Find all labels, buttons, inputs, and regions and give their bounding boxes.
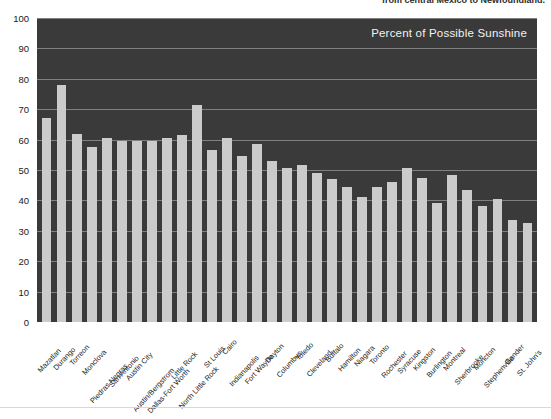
bar (87, 147, 97, 322)
bar (252, 144, 262, 322)
bar (357, 197, 367, 322)
bar (147, 141, 157, 322)
y-axis-tick-label: 30 (18, 225, 29, 236)
sunshine-bar-chart: 0102030405060708090100 Percent of Possib… (0, 9, 551, 419)
bar (222, 138, 232, 322)
bar (372, 187, 382, 322)
y-axis: 0102030405060708090100 (0, 18, 33, 322)
bar (402, 168, 412, 322)
bar (132, 141, 142, 322)
y-axis-tick-label: 50 (18, 165, 29, 176)
bar (387, 182, 397, 322)
bar (162, 138, 172, 322)
bar (297, 165, 307, 322)
bar (447, 175, 457, 322)
y-axis-tick-label: 10 (18, 286, 29, 297)
x-axis: MazatlanDurangoTorreonMonclovaPiedras Ne… (37, 323, 537, 413)
bar (72, 134, 82, 322)
y-axis-tick-label: 20 (18, 256, 29, 267)
top-caption: from central Mexico to Newfoundland. (0, 0, 551, 9)
x-axis-tick-label: Toledo (309, 323, 331, 346)
plot-area: Percent of Possible Sunshine (37, 18, 537, 322)
top-caption-text: from central Mexico to Newfoundland. (382, 0, 545, 5)
bar (102, 138, 112, 322)
chart-title: Percent of Possible Sunshine (371, 27, 527, 39)
y-axis-tick-label: 90 (18, 43, 29, 54)
bar (432, 203, 442, 322)
y-axis-tick-label: 60 (18, 134, 29, 145)
bar-series (37, 18, 537, 322)
bar (267, 161, 277, 322)
bottom-divider (0, 407, 551, 408)
bar (57, 85, 67, 322)
bar (207, 150, 217, 322)
bar (117, 141, 127, 322)
bar (327, 179, 337, 322)
y-axis-tick-label: 40 (18, 195, 29, 206)
bar (342, 187, 352, 322)
bar (462, 190, 472, 322)
bar (523, 223, 533, 322)
bar (42, 118, 52, 322)
y-axis-tick-label: 0 (24, 317, 29, 328)
bar (192, 105, 202, 322)
bar (237, 156, 247, 322)
bar (312, 173, 322, 322)
bar (282, 168, 292, 322)
bar (417, 178, 427, 322)
bar (478, 206, 488, 322)
bar (508, 220, 518, 322)
y-axis-tick-label: 80 (18, 73, 29, 84)
y-axis-tick-label: 100 (13, 13, 29, 24)
bar (177, 135, 187, 322)
y-axis-tick-label: 70 (18, 104, 29, 115)
bar (493, 199, 503, 322)
